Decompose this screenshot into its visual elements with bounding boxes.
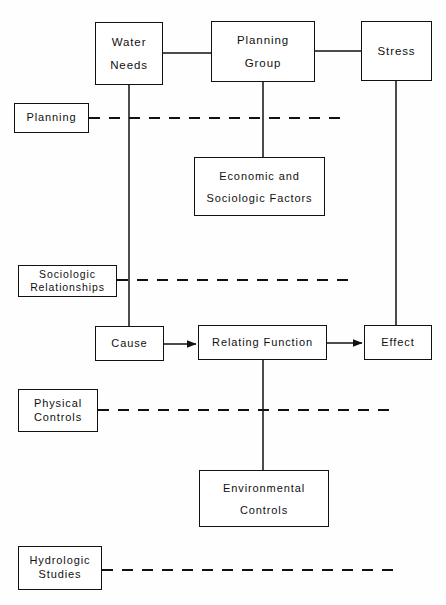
node-label-planning-group-line-1: Planning xyxy=(237,29,289,52)
node-label-hydrologic-studies-line-1: Hydrologic xyxy=(30,554,91,568)
node-effect[interactable]: Effect xyxy=(364,325,432,360)
node-label-planning-group-line-2: Group xyxy=(245,52,281,75)
node-label-cause-line-1: Cause xyxy=(111,337,147,351)
node-label-water-needs-line-2: Needs xyxy=(110,54,148,77)
node-relating-function[interactable]: Relating Function xyxy=(198,325,327,360)
node-label-physical-controls-line-2: Controls xyxy=(34,411,82,425)
node-physical-controls[interactable]: PhysicalControls xyxy=(18,389,98,432)
node-economic-sociologic[interactable]: Economic andSociologic Factors xyxy=(194,157,325,216)
flow-diagram-canvas: WaterNeedsPlanningGroupStressPlanningEco… xyxy=(0,0,446,605)
node-water-needs[interactable]: WaterNeeds xyxy=(95,22,163,85)
node-planning[interactable]: Planning xyxy=(14,103,89,133)
node-label-sociologic-rel-line-2: Relationships xyxy=(30,281,105,294)
node-label-relating-function-line-1: Relating Function xyxy=(212,336,313,350)
node-label-environmental-ctl-line-2: Controls xyxy=(240,499,288,521)
node-label-planning-line-1: Planning xyxy=(26,111,76,125)
node-label-effect-line-1: Effect xyxy=(381,336,414,350)
node-label-economic-sociologic-line-1: Economic and xyxy=(219,165,300,187)
node-label-economic-sociologic-line-2: Sociologic Factors xyxy=(206,187,312,209)
node-cause[interactable]: Cause xyxy=(95,326,164,361)
node-stress[interactable]: Stress xyxy=(361,21,432,81)
node-label-stress-line-1: Stress xyxy=(378,44,416,58)
node-label-environmental-ctl-line-1: Environmental xyxy=(223,477,305,499)
node-environmental-ctl[interactable]: EnvironmentalControls xyxy=(199,470,329,527)
node-label-physical-controls-line-1: Physical xyxy=(34,397,82,411)
node-hydrologic-studies[interactable]: HydrologicStudies xyxy=(18,546,102,590)
node-planning-group[interactable]: PlanningGroup xyxy=(211,21,315,82)
node-label-sociologic-rel-line-1: Sociologic xyxy=(39,268,96,281)
node-sociologic-rel[interactable]: SociologicRelationships xyxy=(18,265,117,297)
node-label-water-needs-line-1: Water xyxy=(112,31,147,54)
node-label-hydrologic-studies-line-2: Studies xyxy=(39,568,82,582)
